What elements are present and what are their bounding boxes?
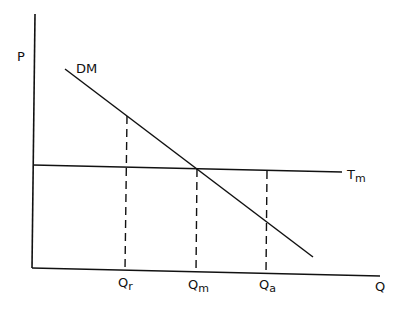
qr-label-sub: r [128,280,133,293]
x-axis [32,268,380,276]
qm-tick-label: Qm [188,278,209,294]
qm-label-main: Q [188,277,198,292]
qr-dashed-line [125,116,127,270]
qa-label-main: Q [259,277,269,292]
tm-line [33,165,342,172]
qm-dashed-line [196,169,197,272]
tm-label-sub: m [355,172,366,185]
qa-label-sub: a [269,282,276,295]
qa-tick-label: Qa [259,278,276,294]
y-axis [32,14,35,268]
qr-label-main: Q [118,275,128,290]
x-axis-label: Q [375,280,385,293]
qm-label-sub: m [198,282,209,295]
dm-curve-label: DM [76,62,97,75]
dm-demand-line [65,69,313,257]
tm-curve-label: Tm [347,168,366,184]
tm-label-main: T [347,167,355,182]
y-axis-label: P [17,50,25,63]
qr-tick-label: Qr [118,276,133,292]
diagram-canvas [0,0,398,310]
